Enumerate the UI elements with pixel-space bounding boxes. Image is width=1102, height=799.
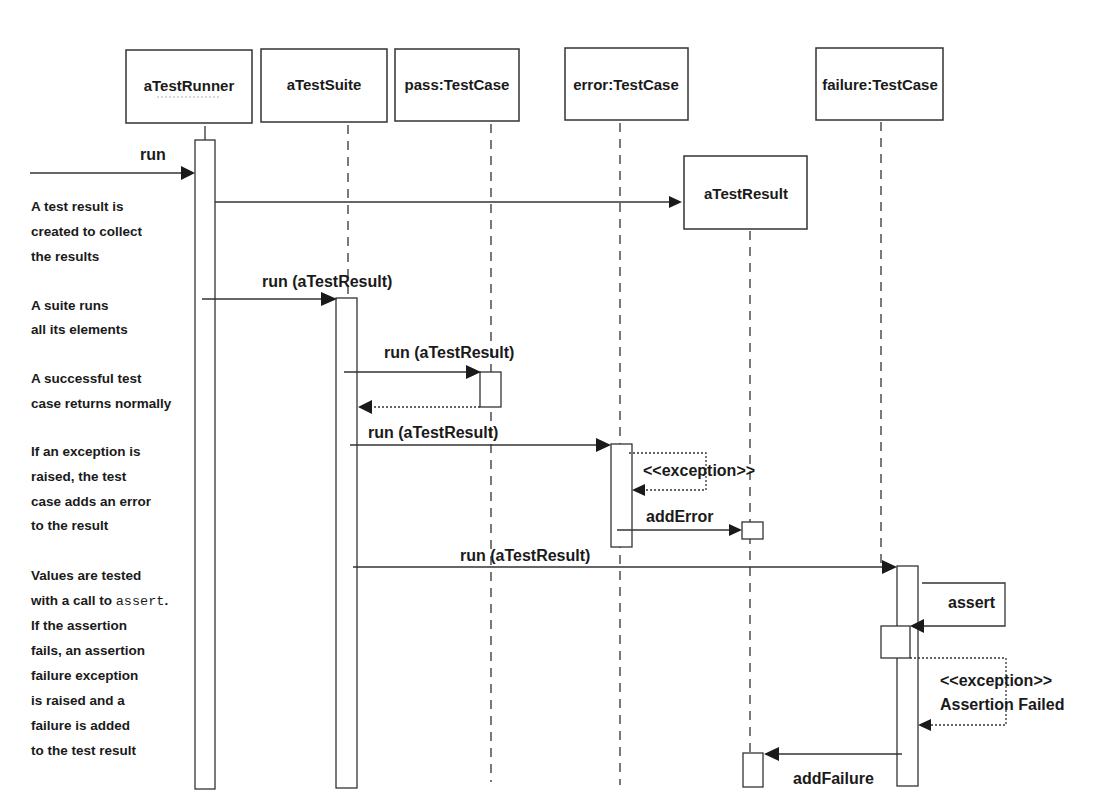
message-assertion-failed: <<exception>> Assertion Failed xyxy=(910,658,1064,731)
svg-text:case adds an error: case adds an error xyxy=(31,494,152,509)
svg-text:<<exception>>: <<exception>> xyxy=(940,672,1052,689)
svg-text:to the test result: to the test result xyxy=(31,743,137,758)
svg-text:failure exception: failure exception xyxy=(31,668,138,683)
svg-text:case returns normally: case returns normally xyxy=(31,396,172,411)
participant-label: aTestRunner xyxy=(144,77,235,94)
svg-text:created to collect: created to collect xyxy=(31,224,143,239)
participant-pass-test-case[interactable]: pass:TestCase xyxy=(395,49,519,121)
svg-text:run (aTestResult): run (aTestResult) xyxy=(460,547,590,564)
note-exception-raised: If an exception is raised, the test case… xyxy=(31,444,152,533)
activation-a-test-runner xyxy=(195,140,215,789)
message-add-failure: addFailure xyxy=(764,747,902,787)
activation-a-test-result-add-error xyxy=(742,522,763,539)
svg-text:Assertion Failed: Assertion Failed xyxy=(940,696,1064,713)
activation-assert xyxy=(881,626,910,658)
message-suite-run: run (aTestResult) xyxy=(202,273,392,306)
svg-text:to the result: to the result xyxy=(31,518,109,533)
svg-text:fails, an assertion: fails, an assertion xyxy=(31,643,145,658)
svg-text:failure is added: failure is added xyxy=(31,718,130,733)
svg-text:run (aTestResult): run (aTestResult) xyxy=(368,424,498,441)
svg-text:<<exception>>: <<exception>> xyxy=(643,462,755,479)
svg-text:run (aTestResult): run (aTestResult) xyxy=(384,344,514,361)
svg-text:If the assertion: If the assertion xyxy=(31,618,127,633)
message-add-error: addError xyxy=(617,508,742,536)
svg-text:run: run xyxy=(140,146,166,163)
participant-label: aTestSuite xyxy=(287,76,362,93)
note-test-result-created: A test result is created to collect the … xyxy=(31,199,143,264)
message-assert: assert xyxy=(910,583,1005,633)
svg-text:A test result is: A test result is xyxy=(31,199,124,214)
participant-label: pass:TestCase xyxy=(405,76,510,93)
note-successful-test: A successful test case returns normally xyxy=(31,371,172,411)
message-failure-run: run (aTestResult) xyxy=(353,547,897,574)
message-error-run: run (aTestResult) xyxy=(350,424,611,452)
message-create-test-result xyxy=(215,196,682,208)
note-assertion-failure: Values are tested with a call to assert.… xyxy=(30,568,168,758)
svg-text:raised, the test: raised, the test xyxy=(31,469,127,484)
svg-text:Values are tested: Values are tested xyxy=(31,568,141,583)
svg-text:with a call to assert.: with a call to assert. xyxy=(30,593,168,609)
svg-text:the results: the results xyxy=(31,249,99,264)
message-pass-return xyxy=(358,400,480,414)
note-suite-runs: A suite runs all its elements xyxy=(31,298,128,337)
activation-pass-test-case xyxy=(480,372,501,407)
participant-failure-test-case[interactable]: failure:TestCase xyxy=(816,48,943,120)
participant-a-test-suite[interactable]: aTestSuite xyxy=(261,49,387,122)
svg-text:assert: assert xyxy=(948,594,996,611)
participant-a-test-result[interactable]: aTestResult xyxy=(684,156,807,229)
activation-a-test-result-add-failure xyxy=(743,753,763,787)
svg-text:A suite runs: A suite runs xyxy=(31,298,109,313)
activation-failure-test-case xyxy=(897,566,918,786)
svg-text:addError: addError xyxy=(646,508,714,525)
svg-text:all its elements: all its elements xyxy=(31,322,128,337)
participant-error-test-case[interactable]: error:TestCase xyxy=(565,48,688,120)
svg-text:addFailure: addFailure xyxy=(793,770,874,787)
sequence-diagram: aTestRunner aTestSuite pass:TestCase err… xyxy=(0,0,1102,799)
participant-label: aTestResult xyxy=(704,185,788,202)
message-error-exception: <<exception>> xyxy=(629,453,755,496)
svg-text:run (aTestResult): run (aTestResult) xyxy=(262,273,392,290)
participant-label: error:TestCase xyxy=(573,76,679,93)
svg-text:A successful test: A successful test xyxy=(31,371,142,386)
participant-label: failure:TestCase xyxy=(822,76,938,93)
participant-a-test-runner[interactable]: aTestRunner xyxy=(126,50,252,123)
svg-text:If an exception is: If an exception is xyxy=(31,444,141,459)
message-run: run xyxy=(30,146,195,180)
activation-error-test-case xyxy=(611,444,632,547)
svg-text:is raised and a: is raised and a xyxy=(31,693,125,708)
